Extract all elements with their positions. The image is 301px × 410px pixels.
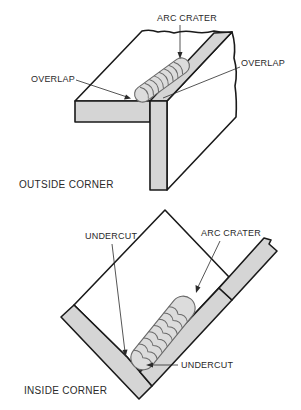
inside-undercut-bottom-label: UNDERCUT — [181, 360, 233, 370]
inside-undercut-top-label: UNDERCUT — [85, 231, 137, 241]
outside-overlap-right-label: OVERLAP — [241, 58, 285, 68]
outside-corner-figure: ARC CRATER OVERLAP OVERLAP OUTSIDE CORNE… — [19, 13, 285, 190]
inside-corner-figure: UNDERCUT ARC CRATER UNDERCUT INSIDE CORN… — [24, 210, 277, 399]
outside-overlap-left-label: OVERLAP — [31, 74, 75, 84]
inside-right-plate-upper — [219, 238, 277, 300]
weld-defects-diagram: ARC CRATER OVERLAP OVERLAP OUTSIDE CORNE… — [0, 0, 301, 410]
outside-arc-crater-label: ARC CRATER — [157, 13, 217, 23]
horizontal-plate-front — [75, 101, 150, 122]
vertical-plate-front — [150, 101, 167, 190]
inside-arc-crater-label: ARC CRATER — [201, 228, 261, 238]
outside-corner-caption: OUTSIDE CORNER — [19, 179, 114, 190]
inside-corner-caption: INSIDE CORNER — [24, 385, 107, 396]
